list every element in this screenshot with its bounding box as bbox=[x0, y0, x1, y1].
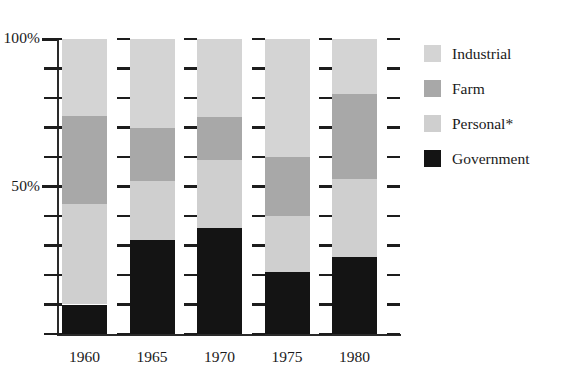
y-axis-label-100: 100% bbox=[0, 30, 40, 46]
tick-overlay bbox=[49, 156, 62, 159]
x-axis-label-1980: 1980 bbox=[320, 349, 390, 365]
y-axis-label-50: 50% bbox=[0, 178, 40, 194]
bar-segment-1970-farm[interactable] bbox=[197, 117, 242, 160]
legend-item-farm[interactable]: Farm bbox=[424, 71, 529, 106]
x-axis-label-1965: 1965 bbox=[117, 349, 187, 365]
bar-segment-1980-personal[interactable] bbox=[332, 179, 377, 257]
tick-overlay bbox=[252, 97, 265, 100]
tick-overlay bbox=[319, 185, 332, 188]
tick-overlay bbox=[252, 274, 265, 277]
stacked-bar-chart: 100%50% 19601965197019751980 IndustrialF… bbox=[0, 0, 562, 385]
bar-1960[interactable] bbox=[62, 39, 107, 334]
tick-overlay bbox=[387, 215, 400, 218]
tick-overlay bbox=[387, 38, 400, 41]
bar-segment-1970-personal[interactable] bbox=[197, 160, 242, 228]
tick-overlay bbox=[117, 67, 130, 70]
tick-overlay bbox=[252, 126, 265, 129]
bar-1980[interactable] bbox=[332, 39, 377, 334]
x-axis-label-1970: 1970 bbox=[185, 349, 255, 365]
bar-segment-1965-industrial[interactable] bbox=[130, 39, 175, 128]
tick-overlay bbox=[184, 215, 197, 218]
bar-1975[interactable] bbox=[265, 39, 310, 334]
tick-overlay bbox=[184, 274, 197, 277]
tick-overlay bbox=[184, 303, 197, 306]
tick-overlay bbox=[387, 156, 400, 159]
tick-overlay bbox=[319, 244, 332, 247]
bar-segment-1970-government[interactable] bbox=[197, 228, 242, 334]
tick-overlay bbox=[319, 274, 332, 277]
bar-segment-1960-farm[interactable] bbox=[62, 116, 107, 205]
bar-segment-1965-government[interactable] bbox=[130, 240, 175, 334]
tick-overlay bbox=[49, 215, 62, 218]
tick-overlay bbox=[252, 38, 265, 41]
tick-overlay bbox=[319, 156, 332, 159]
tick-overlay bbox=[184, 67, 197, 70]
tick-overlay bbox=[252, 185, 265, 188]
tick-overlay bbox=[49, 38, 62, 41]
tick-overlay bbox=[319, 38, 332, 41]
tick-overlay bbox=[252, 333, 265, 336]
legend-item-government[interactable]: Government bbox=[424, 141, 529, 176]
legend-label: Personal* bbox=[452, 116, 513, 132]
tick-overlay bbox=[117, 185, 130, 188]
tick-overlay bbox=[184, 185, 197, 188]
tick-overlay bbox=[387, 274, 400, 277]
bar-1970[interactable] bbox=[197, 39, 242, 334]
x-axis-line bbox=[57, 334, 401, 336]
bar-segment-1975-personal[interactable] bbox=[265, 216, 310, 272]
tick-overlay bbox=[387, 67, 400, 70]
tick-overlay bbox=[117, 215, 130, 218]
legend-label: Industrial bbox=[452, 46, 511, 62]
legend-swatch-icon bbox=[424, 80, 441, 97]
bar-segment-1980-farm[interactable] bbox=[332, 94, 377, 180]
tick-overlay bbox=[184, 126, 197, 129]
tick-overlay bbox=[117, 244, 130, 247]
tick-overlay bbox=[184, 244, 197, 247]
tick-overlay bbox=[49, 97, 62, 100]
bar-segment-1975-government[interactable] bbox=[265, 272, 310, 334]
tick-overlay bbox=[319, 303, 332, 306]
tick-overlay bbox=[49, 333, 62, 336]
bar-segment-1965-farm[interactable] bbox=[130, 128, 175, 181]
tick-overlay bbox=[117, 303, 130, 306]
bar-segment-1965-personal[interactable] bbox=[130, 181, 175, 240]
legend-swatch-icon bbox=[424, 45, 441, 62]
tick-overlay bbox=[319, 67, 332, 70]
tick-overlay bbox=[49, 185, 62, 188]
bar-segment-1980-government[interactable] bbox=[332, 257, 377, 334]
tick-overlay bbox=[117, 333, 130, 336]
tick-overlay bbox=[319, 97, 332, 100]
tick-overlay bbox=[252, 156, 265, 159]
tick-overlay bbox=[387, 244, 400, 247]
x-axis-label-1975: 1975 bbox=[252, 349, 322, 365]
bar-1965[interactable] bbox=[130, 39, 175, 334]
tick-overlay bbox=[252, 67, 265, 70]
legend-item-personal[interactable]: Personal* bbox=[424, 106, 529, 141]
tick-overlay bbox=[117, 156, 130, 159]
tick-overlay bbox=[49, 67, 62, 70]
tick-overlay bbox=[319, 215, 332, 218]
tick-overlay bbox=[252, 303, 265, 306]
bar-segment-1975-farm[interactable] bbox=[265, 157, 310, 216]
tick-overlay bbox=[184, 97, 197, 100]
tick-overlay bbox=[387, 185, 400, 188]
legend-label: Government bbox=[452, 151, 529, 167]
tick-overlay bbox=[117, 38, 130, 41]
tick-overlay bbox=[387, 333, 400, 336]
tick-overlay bbox=[387, 97, 400, 100]
tick-overlay bbox=[117, 274, 130, 277]
bar-segment-1960-government[interactable] bbox=[62, 305, 107, 335]
tick-overlay bbox=[184, 333, 197, 336]
bar-segment-1975-industrial[interactable] bbox=[265, 39, 310, 157]
tick-overlay bbox=[184, 156, 197, 159]
bar-segment-1970-industrial[interactable] bbox=[197, 39, 242, 117]
tick-overlay bbox=[117, 126, 130, 129]
bar-segment-1980-industrial[interactable] bbox=[332, 39, 377, 94]
x-axis-label-1960: 1960 bbox=[50, 349, 120, 365]
bar-segment-1960-industrial[interactable] bbox=[62, 39, 107, 116]
bar-segment-1960-personal[interactable] bbox=[62, 204, 107, 304]
legend-item-industrial[interactable]: Industrial bbox=[424, 36, 529, 71]
tick-overlay bbox=[252, 244, 265, 247]
tick-overlay bbox=[117, 97, 130, 100]
legend-swatch-icon bbox=[424, 115, 441, 132]
